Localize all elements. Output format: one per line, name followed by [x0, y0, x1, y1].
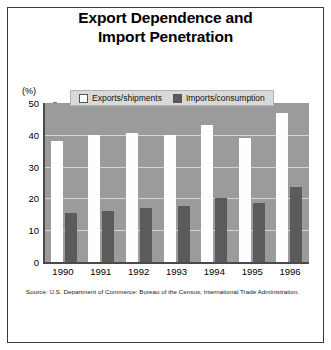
legend-swatch-imports-icon — [173, 94, 182, 103]
bar-group-1993 — [158, 103, 196, 262]
x-axis-line — [44, 262, 309, 264]
y-tick-label-20: 20 — [14, 193, 39, 204]
x-tick-label-1995: 1995 — [233, 266, 271, 277]
bar-imports-1991 — [102, 211, 114, 262]
bar-exports-1996 — [276, 113, 288, 262]
chart-figure: Export Dependence and Import Penetration… — [0, 0, 331, 350]
bar-group-1995 — [233, 103, 271, 262]
x-tick-label-1992: 1992 — [120, 266, 158, 277]
bar-groups — [44, 103, 309, 262]
bar-exports-1991 — [88, 135, 100, 262]
bar-exports-1993 — [164, 135, 176, 262]
x-tick-label-1996: 1996 — [271, 266, 309, 277]
x-tick-label-1990: 1990 — [44, 266, 82, 277]
bar-imports-1996 — [290, 187, 302, 262]
x-tick-label-1993: 1993 — [158, 266, 196, 277]
y-tick-label-50: 50 — [14, 98, 39, 109]
bar-group-1990 — [45, 103, 83, 262]
bar-group-1991 — [83, 103, 121, 262]
chart-legend: Exports/shipments Imports/consumption — [70, 90, 274, 106]
y-tick-label-40: 40 — [14, 129, 39, 140]
bar-group-1992 — [120, 103, 158, 262]
legend-label-exports: Exports/shipments — [92, 93, 162, 103]
bar-imports-1990 — [65, 213, 77, 262]
chart-title-line-2: Import Penetration — [0, 27, 331, 46]
y-axis-tick-labels: 50 40 30 20 10 0 — [14, 103, 39, 262]
chart-title: Export Dependence and Import Penetration — [0, 8, 331, 46]
bar-group-1994 — [195, 103, 233, 262]
bar-exports-1994 — [201, 125, 213, 262]
bar-group-1996 — [270, 103, 308, 262]
legend-swatch-exports-icon — [79, 94, 88, 103]
bar-imports-1993 — [178, 206, 190, 262]
x-tick-label-1994: 1994 — [195, 266, 233, 277]
chart-source-note: Source: U.S. Department of Commerce: Bur… — [26, 288, 317, 296]
x-tick-label-1991: 1991 — [82, 266, 120, 277]
chart-title-line-1: Export Dependence and — [0, 8, 331, 27]
x-axis-tick-labels: 1990199119921993199419951996 — [44, 266, 309, 277]
bar-imports-1992 — [140, 208, 152, 262]
legend-item-exports: Exports/shipments — [79, 93, 162, 103]
legend-label-imports: Imports/consumption — [186, 93, 265, 103]
bar-exports-1992 — [126, 133, 138, 262]
bar-exports-1995 — [239, 138, 251, 262]
y-tick-label-10: 10 — [14, 225, 39, 236]
plot-area — [44, 103, 309, 262]
y-tick-label-30: 30 — [14, 161, 39, 172]
y-tick-label-0: 0 — [14, 257, 39, 268]
plot-area-wrapper — [44, 103, 309, 262]
y-axis-unit-label: (%) — [22, 86, 36, 96]
bar-imports-1994 — [215, 198, 227, 262]
bar-exports-1990 — [51, 141, 63, 262]
y-axis-line — [43, 103, 45, 264]
bar-imports-1995 — [253, 203, 265, 262]
legend-item-imports: Imports/consumption — [173, 93, 265, 103]
